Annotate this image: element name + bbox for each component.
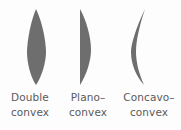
concavo-convex-lens-icon bbox=[118, 0, 178, 92]
label-concavo-convex-line2: convex bbox=[119, 105, 179, 120]
lens-cell-double-convex bbox=[0, 0, 60, 92]
label-plano-convex-line1: Plano– bbox=[58, 90, 118, 105]
label-double-convex-line2: convex bbox=[0, 105, 60, 120]
lens-labels-row: Double convex Plano– convex Concavo– con… bbox=[0, 90, 181, 130]
lens-types-figure: Double convex Plano– convex Concavo– con… bbox=[0, 0, 181, 130]
label-plano-convex: Plano– convex bbox=[58, 90, 118, 120]
plano-convex-lens-icon bbox=[58, 0, 118, 92]
label-concavo-convex: Concavo– convex bbox=[119, 90, 179, 120]
lens-cell-plano-convex bbox=[58, 0, 118, 92]
label-double-convex: Double convex bbox=[0, 90, 60, 120]
label-concavo-convex-line1: Concavo– bbox=[119, 90, 179, 105]
label-double-convex-line1: Double bbox=[0, 90, 60, 105]
double-convex-lens-icon bbox=[0, 0, 60, 92]
lens-cell-concavo-convex bbox=[118, 0, 178, 92]
label-plano-convex-line2: convex bbox=[58, 105, 118, 120]
lens-diagram-row bbox=[0, 0, 181, 92]
